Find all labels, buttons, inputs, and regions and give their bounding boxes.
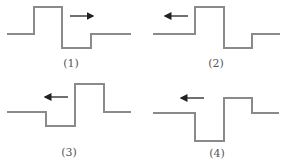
- panel-4: (4): [145, 82, 289, 163]
- wave-pulse: [153, 98, 279, 141]
- panel-label-4: (4): [202, 147, 232, 160]
- wave-pulse: [7, 7, 131, 48]
- panel-2: (2): [145, 0, 289, 82]
- panel-label-2: (2): [201, 57, 231, 70]
- panel-3: (3): [0, 82, 145, 163]
- panel-label-1: (1): [56, 57, 86, 70]
- panel-label-3: (3): [54, 146, 84, 159]
- panel-1: (1): [0, 0, 145, 82]
- wave-pulse: [7, 84, 131, 126]
- wave-pulse: [153, 7, 280, 48]
